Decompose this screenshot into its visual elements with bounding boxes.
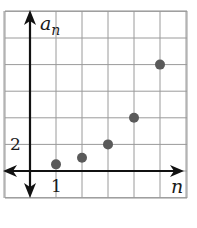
data-point bbox=[51, 159, 61, 169]
x-tick-label: 1 bbox=[51, 176, 62, 196]
data-point bbox=[103, 139, 113, 149]
data-point bbox=[155, 60, 165, 70]
y-axis-label: an bbox=[40, 12, 60, 38]
data-point bbox=[129, 113, 139, 123]
sequence-plot: an n 12 bbox=[0, 0, 197, 228]
x-axis-label: n bbox=[171, 175, 183, 197]
data-point bbox=[77, 153, 87, 163]
y-tick-label: 2 bbox=[10, 134, 21, 154]
